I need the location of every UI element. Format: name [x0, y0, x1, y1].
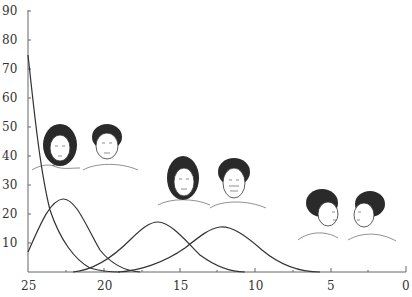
svg-text:0: 0	[402, 279, 410, 293]
svg-text:15: 15	[173, 279, 188, 293]
face-child-right	[348, 191, 396, 241]
svg-text:90: 90	[2, 4, 17, 18]
face-child-left	[298, 189, 338, 240]
illustration-middle-aged	[158, 156, 266, 208]
illustration-children	[298, 189, 396, 241]
face-woman-middle-aged	[158, 156, 210, 205]
curve-1-decay	[28, 55, 120, 272]
x-tick-labels: 25 20 15 10 5 0	[21, 279, 410, 293]
svg-text:80: 80	[2, 33, 17, 47]
curve-2	[28, 199, 140, 272]
svg-text:70: 70	[2, 62, 17, 76]
chart: 10 20 30 40 50 60 70 80 90 25 20 15 10 5…	[0, 0, 412, 297]
svg-text:20: 20	[97, 279, 112, 293]
svg-text:40: 40	[2, 149, 17, 163]
curve-4	[118, 227, 320, 272]
svg-text:10: 10	[248, 279, 263, 293]
svg-text:50: 50	[2, 120, 17, 134]
y-tick-labels: 10 20 30 40 50 60 70 80 90	[2, 4, 17, 250]
svg-text:25: 25	[21, 279, 36, 293]
svg-text:10: 10	[2, 236, 17, 250]
face-man-middle-aged	[210, 158, 266, 208]
svg-text:20: 20	[2, 207, 17, 221]
svg-text:60: 60	[2, 91, 17, 105]
svg-text:30: 30	[2, 178, 17, 192]
face-man-young	[83, 124, 138, 170]
svg-text:5: 5	[327, 279, 335, 293]
illustration-young-adults	[32, 124, 138, 170]
